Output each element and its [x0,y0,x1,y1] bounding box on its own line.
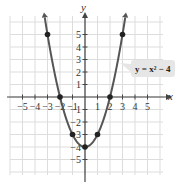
x-tick-label: 1 [95,101,100,112]
callout-pointer [120,63,131,72]
data-point [107,94,113,100]
equation-callout: y = x² − 4 [120,60,175,77]
data-point [120,32,126,38]
y-tick-label: −5 [70,154,81,165]
x-tick-label: 5 [145,101,150,112]
grid-lines [10,16,163,175]
x-axis-label: x [167,90,173,102]
y-tick-label: −1 [70,104,81,115]
y-tick-label: 1 [76,79,81,90]
y-tick-label: 3 [76,54,81,65]
parabola-graph: −5−4−3−2−112345 −5−4−3−2−112345 x y y = … [0,0,178,186]
x-tick-label: 4 [133,101,138,112]
y-axis-label: y [80,1,86,13]
curve-arrow-icon [42,12,48,17]
data-point [95,132,101,138]
curve-arrow-icon [122,12,128,17]
data-point [57,94,63,100]
y-tick-label: 2 [76,67,81,78]
y-tick-label: −2 [70,117,81,128]
x-tick-label: −3 [42,101,53,112]
x-tick-labels: −5−4−3−2−112345 [17,101,150,112]
x-tick-label: −5 [17,101,28,112]
data-point [45,32,51,38]
data-point [82,144,88,150]
y-tick-label: 5 [76,29,81,40]
y-tick-label: 4 [76,42,81,53]
x-tick-label: 3 [120,101,125,112]
data-point [70,132,76,138]
x-tick-label: −4 [30,101,41,112]
equation-text: y = x² − 4 [135,64,171,74]
